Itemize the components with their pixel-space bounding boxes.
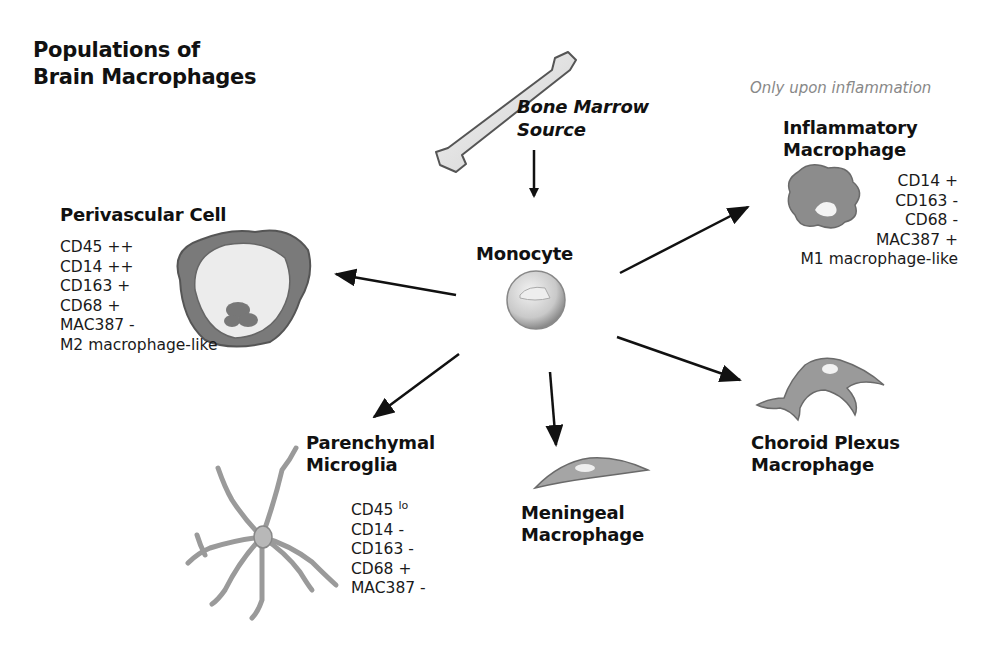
monocyte-cell-icon (507, 271, 565, 329)
monocyte-label: Monocyte (476, 243, 573, 265)
cd45-lo-superscript: lo (398, 499, 408, 512)
inflammatory-label: Inflammatory Macrophage (783, 117, 918, 161)
diagram-title: Populations of Brain Macrophages (33, 37, 256, 91)
title-line-1: Populations of (33, 37, 256, 64)
arrow-to-inflammatory (620, 207, 748, 273)
arrow-to-choroid (617, 337, 740, 380)
source-label: Bone Marrow Source (517, 95, 649, 141)
choroid-plexus-label: Choroid Plexus Macrophage (751, 432, 900, 476)
meningeal-label: Meningeal Macrophage (521, 502, 644, 546)
arrow-to-perivascular (336, 274, 456, 295)
perivascular-markers: CD45 ++ CD14 ++ CD163 + CD68 + MAC387 - … (60, 238, 218, 355)
parenchymal-label: Parenchymal Microglia (306, 432, 435, 476)
choroid-plexus-macrophage-icon (757, 358, 884, 420)
inflammatory-markers: CD14 + CD163 - CD68 - MAC387 + M1 macrop… (801, 172, 959, 270)
title-line-2: Brain Macrophages (33, 64, 256, 91)
perivascular-label: Perivascular Cell (60, 204, 226, 226)
inflammation-note: Only upon inflammation (750, 79, 931, 97)
parenchymal-markers: CD45 lo CD14 - CD163 - CD68 + MAC387 - (351, 496, 426, 599)
meningeal-macrophage-icon (535, 458, 648, 488)
arrow-to-meningeal (550, 372, 556, 445)
arrow-to-parenchymal (374, 354, 459, 417)
